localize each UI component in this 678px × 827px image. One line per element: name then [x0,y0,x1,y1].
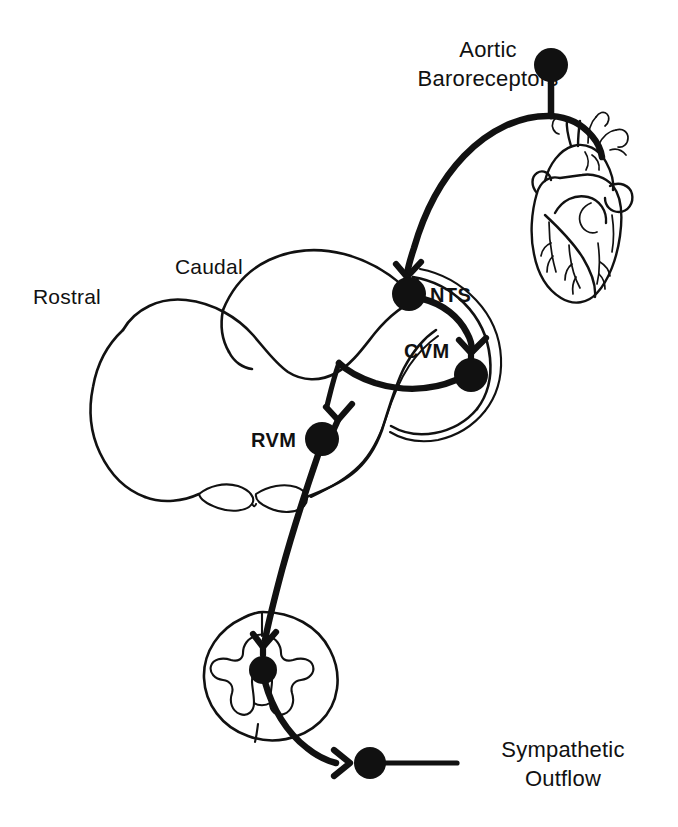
heart-illustration [532,112,633,302]
rostral-label: Rostral [33,285,101,308]
cvm-rvm-axon [339,363,456,389]
brainstem-pyramid-left [199,484,253,510]
spinal-grey-left [211,636,257,715]
baroreflex-diagram: Aortic Baroreceptors Rostral Caudal NTS … [0,0,678,827]
cvm-label: CVM [404,340,450,362]
heart-vessel-branch-3 [596,112,609,126]
cvm-rvm-descending-segment [327,363,339,406]
nts-label: NTS [430,284,471,306]
rvm-bulbospinal-axon [265,455,318,640]
brainstem-rostral-contour [91,330,145,497]
baroreceptor-central-branch [407,116,551,274]
heart-coronary-2a [565,264,572,280]
baroreceptor-afferent-pathway [396,80,602,287]
heart-body [532,174,622,302]
aortic-baroreceptors-label-line2: Baroreceptors [418,66,559,91]
caudal-label: Caudal [175,255,243,278]
heart-coronary-3 [597,243,599,284]
aortic-baroreceptors-label-line1: Aortic [459,37,516,62]
heart-ascending-aorta [567,120,571,146]
heart-vessel-branch-7 [585,152,588,170]
rvm-soma [305,422,339,456]
heart-vessel-branch-8 [592,155,599,170]
sympathetic-outflow-label-line2: Outflow [525,766,601,791]
sympathetic-outflow-label-line1: Sympathetic [501,737,624,762]
sympathetic-ganglion-soma [354,747,386,779]
heart-coronary-1a [541,243,551,256]
heart-vessel-branch-5 [616,129,628,147]
heart-coronary-1 [549,222,556,272]
brainstem-cerebellum-lower-left [229,352,252,369]
preganglionic-axon [265,682,336,763]
cvm-soma [454,358,488,392]
brainstem-dorsal-contour [123,298,421,379]
heart-coronary-4 [612,215,614,252]
brainstem-cerebellum-top [223,250,402,310]
spinal-preganglionic-soma [249,656,277,684]
brainstem-pyramid-junction [252,504,256,506]
baroreceptor-peripheral-branch [551,116,602,157]
brainstem-cerebellum-left-edge [222,310,229,352]
heart-septum-curve [555,196,606,223]
figure-root: Aortic Baroreceptors Rostral Caudal NTS … [0,0,678,827]
brainstem-ventral-left [145,494,199,501]
heart-vessel-branch-6 [610,149,626,155]
neuron-somas [249,48,568,779]
heart-inner-loop [580,203,597,233]
nts-soma [392,277,426,311]
cvm-to-rvm-pathway [326,363,456,429]
spinal-grey-commissure-bottom [254,703,270,705]
heart-coronary-2b [573,277,576,294]
rvm-label: RVM [251,429,296,451]
